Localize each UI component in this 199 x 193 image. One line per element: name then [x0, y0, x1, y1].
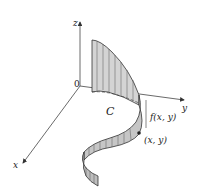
height-label: f(x, y) — [149, 112, 177, 122]
origin-label: 0 — [74, 79, 80, 89]
z-axis-label: z — [72, 18, 78, 28]
x-axis-label: x — [13, 160, 18, 170]
x-axis — [23, 86, 80, 163]
point-marker — [137, 131, 141, 135]
point-label: (x, y) — [144, 135, 167, 145]
y-axis-label: y — [181, 103, 188, 113]
upper-sheet — [92, 40, 139, 105]
curve-label: C — [106, 105, 115, 118]
curtain-diagram: z y x 0 C f(x, y) (x, y) — [0, 0, 199, 193]
